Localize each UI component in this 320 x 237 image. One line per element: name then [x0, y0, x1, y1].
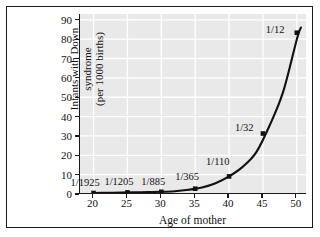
- x-axis-tick-label: 50: [290, 198, 301, 209]
- y-axis-title-line2: (per 1000 births): [93, 9, 106, 129]
- point-annotation-label: 1/12: [266, 25, 285, 36]
- x-axis-tick-mark: [92, 194, 93, 198]
- data-curve: [94, 28, 301, 193]
- y-axis-tick-mark: [75, 155, 79, 156]
- x-axis-tick-label: 20: [87, 198, 98, 209]
- x-axis-tick-mark: [194, 194, 195, 198]
- data-point-marker: [261, 131, 266, 136]
- x-axis-tick-mark: [227, 194, 228, 198]
- y-axis-tick-label: 0: [67, 189, 73, 200]
- x-axis-tick-mark: [261, 194, 262, 198]
- plot-area: [79, 14, 306, 194]
- data-point-marker: [295, 30, 300, 35]
- y-axis-tick-mark: [75, 135, 79, 136]
- y-axis-tick-label: 30: [61, 130, 72, 141]
- point-annotation-label: 1/365: [175, 172, 199, 183]
- y-axis-title-line1: Infants with Down syndrome: [68, 9, 93, 129]
- chart-svg: [80, 14, 306, 194]
- x-axis-tick-label: 25: [121, 198, 132, 209]
- y-axis-tick-mark: [75, 174, 79, 175]
- x-axis-tick-label: 45: [256, 198, 267, 209]
- plot-wrapper: 0102030405060708090 20253035404550 1/192…: [79, 14, 306, 194]
- figure-panel: 0102030405060708090 20253035404550 1/192…: [6, 6, 313, 228]
- x-axis-title: Age of mother: [79, 214, 306, 226]
- point-annotation-label: 1/1205: [104, 177, 133, 188]
- data-point-marker: [227, 174, 232, 179]
- x-axis-tick-mark: [126, 194, 127, 198]
- gridlines: [80, 14, 306, 194]
- x-axis-tick-mark: [295, 194, 296, 198]
- y-axis-title: Infants with Down syndrome (per 1000 bir…: [68, 9, 106, 129]
- x-axis-tick-label: 30: [155, 198, 166, 209]
- data-point-marker: [193, 186, 198, 191]
- x-axis-tick-label: 40: [223, 198, 234, 209]
- y-axis-tick-label: 20: [61, 150, 72, 161]
- x-axis-tick-mark: [160, 194, 161, 198]
- y-axis-tick-mark: [75, 193, 79, 194]
- point-annotation-label: 1/885: [141, 177, 165, 188]
- point-annotation-label: 1/110: [206, 157, 230, 168]
- point-annotation-label: 1/32: [235, 123, 254, 134]
- point-annotation-label: 1/1925: [71, 178, 100, 189]
- x-axis-tick-label: 35: [189, 198, 200, 209]
